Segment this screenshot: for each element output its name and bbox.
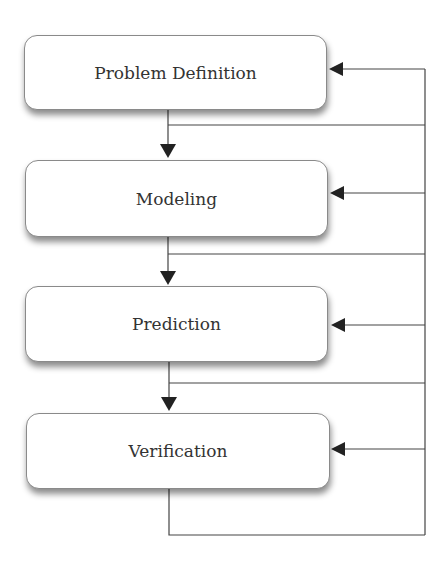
arrow-down-icon [160,144,176,158]
arrow-left-icon [330,186,344,200]
box-label: Verification [129,441,228,461]
arrow-down-icon [161,397,177,411]
box-label: Problem Definition [94,63,257,83]
arrow-left-icon [331,318,345,332]
box-verification: Verification [26,413,330,489]
arrow-left-icon [329,62,343,76]
box-label: Prediction [132,314,221,334]
arrow-left-icon [331,442,345,456]
box-prediction: Prediction [25,286,328,362]
box-modeling: Modeling [25,160,328,237]
box-label: Modeling [136,189,217,209]
box-problem-definition: Problem Definition [24,35,327,110]
arrow-down-icon [160,271,176,285]
